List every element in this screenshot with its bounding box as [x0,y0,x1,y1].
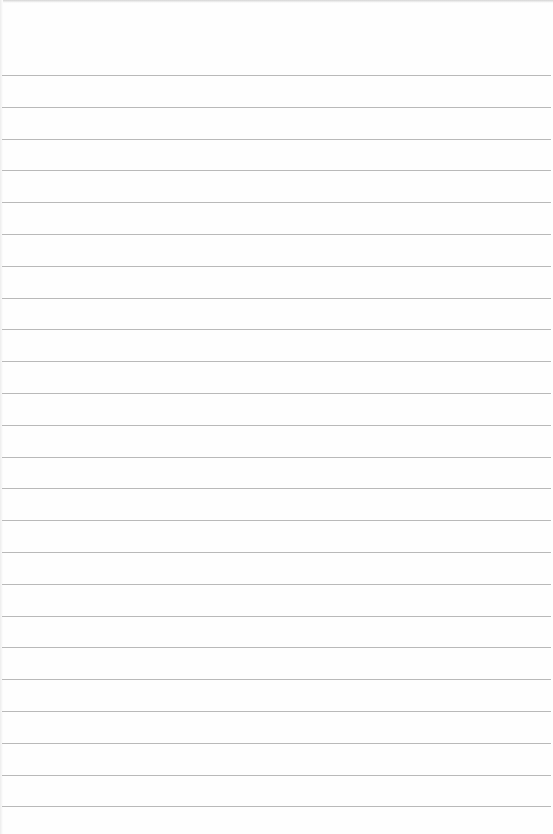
ruled-line [2,393,551,394]
ruled-line [2,457,551,458]
lined-paper-page [0,0,553,834]
ruled-line [2,139,551,140]
ruled-line [2,202,551,203]
page-top-edge [0,0,553,3]
ruled-line [2,425,551,426]
ruled-line [2,107,551,108]
ruled-line [2,170,551,171]
ruled-line [2,743,551,744]
ruled-line [2,775,551,776]
ruled-line [2,647,551,648]
ruled-line [2,75,551,76]
ruled-line [2,298,551,299]
ruled-line [2,584,551,585]
ruled-line [2,266,551,267]
ruled-line [2,711,551,712]
ruled-line [2,488,551,489]
ruled-line [2,616,551,617]
ruled-line [2,806,551,807]
ruled-line [2,361,551,362]
ruled-line [2,520,551,521]
ruled-line [2,234,551,235]
ruled-line [2,329,551,330]
ruled-line [2,679,551,680]
ruled-line [2,552,551,553]
page-left-edge [0,0,3,834]
